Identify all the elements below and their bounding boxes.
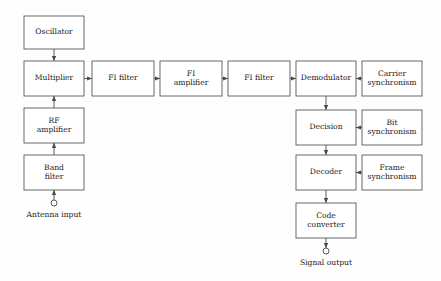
block-fi-filter-2[interactable]: FI filter (228, 61, 290, 96)
block-label-carrier-synchronism: Carrier (378, 69, 407, 78)
blocks-layer: OscillatorMultiplierRFamplifierBandfilte… (24, 16, 422, 238)
block-label-fi-amplifier: FI (187, 69, 195, 78)
block-label-decision: Decision (309, 122, 342, 131)
block-label-code-converter: Code (316, 211, 336, 220)
block-multiplier[interactable]: Multiplier (24, 61, 84, 96)
terminal-antenna-input: Antenna input (26, 200, 82, 219)
block-label-bit-synchronism: synchronism (368, 127, 417, 136)
block-oscillator[interactable]: Oscillator (24, 16, 84, 49)
terminal-circle-signal-output (323, 248, 329, 254)
block-label-fi-amplifier: amplifier (174, 78, 209, 87)
block-band-filter[interactable]: Bandfilter (24, 155, 84, 190)
block-fi-filter-1[interactable]: FI filter (92, 61, 154, 96)
block-label-fi-filter-1: FI filter (108, 73, 138, 82)
block-demodulator[interactable]: Demodulator (296, 61, 356, 96)
block-label-carrier-synchronism: synchronism (368, 78, 417, 87)
block-label-bit-synchronism: Bit (386, 118, 397, 127)
block-carrier-synchronism[interactable]: Carriersynchronism (362, 61, 422, 96)
block-frame-synchronism[interactable]: Framesynchronism (362, 155, 422, 190)
block-label-oscillator: Oscillator (35, 27, 73, 36)
terminal-label-signal-output: Signal output (300, 258, 352, 267)
receiver-block-diagram: OscillatorMultiplierRFamplifierBandfilte… (0, 0, 441, 281)
block-label-code-converter: converter (307, 220, 345, 229)
block-diagram-canvas: OscillatorMultiplierRFamplifierBandfilte… (0, 0, 441, 281)
block-decoder[interactable]: Decoder (296, 155, 356, 190)
block-label-rf-amplifier: RF (49, 116, 60, 125)
block-label-frame-synchronism: synchronism (368, 172, 417, 181)
block-code-converter[interactable]: Codeconverter (296, 203, 356, 238)
block-label-decoder: Decoder (310, 167, 343, 176)
block-bit-synchronism[interactable]: Bitsynchronism (362, 110, 422, 145)
block-label-fi-filter-2: FI filter (244, 73, 274, 82)
block-label-rf-amplifier: amplifier (37, 125, 72, 134)
block-label-multiplier: Multiplier (35, 73, 74, 82)
block-label-band-filter: Band (44, 163, 64, 172)
terminal-label-antenna-input: Antenna input (26, 210, 82, 219)
block-rf-amplifier[interactable]: RFamplifier (24, 108, 84, 143)
block-decision[interactable]: Decision (296, 110, 356, 145)
block-label-frame-synchronism: Frame (379, 163, 405, 172)
block-fi-amplifier[interactable]: FIamplifier (160, 61, 222, 96)
block-label-demodulator: Demodulator (301, 73, 352, 82)
terminal-circle-antenna-input (51, 200, 57, 206)
terminal-signal-output: Signal output (300, 248, 352, 267)
block-label-band-filter: filter (45, 172, 64, 181)
